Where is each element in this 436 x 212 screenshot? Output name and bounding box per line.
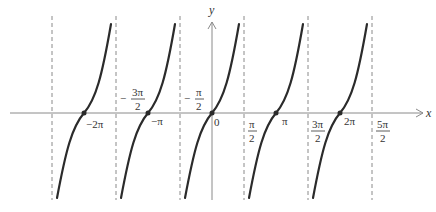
asymptote-label-neg-3pi-2: − 3π 2 xyxy=(120,86,145,112)
zero-label-neg-pi: −π xyxy=(151,115,163,127)
svg-text:2: 2 xyxy=(315,132,321,144)
y-axis-label: y xyxy=(208,3,215,17)
zero-point xyxy=(146,111,151,116)
svg-text:3π: 3π xyxy=(132,86,144,98)
tangent-graph: y x −2π −π 0 π 2π − 3π 2 − π 2 π 2 3π 2 … xyxy=(0,0,436,212)
svg-text:2: 2 xyxy=(380,132,386,144)
zero-label-neg-2pi: −2π xyxy=(86,118,104,130)
svg-text:2: 2 xyxy=(196,100,202,112)
zero-label-2pi: 2π xyxy=(344,115,356,127)
zero-point xyxy=(210,111,215,116)
asymptote-label-3pi-2: 3π 2 xyxy=(311,118,325,144)
x-axis-label: x xyxy=(425,106,432,120)
svg-text:π: π xyxy=(196,86,202,98)
svg-text:5π: 5π xyxy=(377,118,389,130)
zero-point xyxy=(82,111,87,116)
svg-text:−: − xyxy=(184,92,190,104)
svg-text:3π: 3π xyxy=(312,118,324,130)
zero-point xyxy=(338,111,343,116)
asymptote-label-pi-2: π 2 xyxy=(248,118,257,144)
asymptote-label-neg-pi-2: − π 2 xyxy=(184,86,204,112)
zero-label-pi: π xyxy=(282,115,288,127)
zero-point xyxy=(274,111,279,116)
svg-text:2: 2 xyxy=(135,100,141,112)
svg-text:π: π xyxy=(249,118,255,130)
svg-text:−: − xyxy=(120,92,126,104)
asymptote-label-5pi-2: 5π 2 xyxy=(376,118,390,144)
svg-text:2: 2 xyxy=(249,132,255,144)
zero-label-0: 0 xyxy=(214,116,220,128)
